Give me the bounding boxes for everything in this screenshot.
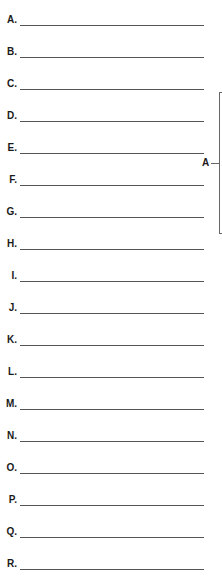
answer-blank-line[interactable] <box>20 377 204 378</box>
answer-blank-line[interactable] <box>20 185 204 186</box>
answer-blank-line[interactable] <box>20 217 204 218</box>
answer-row: E. <box>0 142 210 156</box>
answer-label: H. <box>7 238 17 250</box>
answer-row: D. <box>0 110 210 124</box>
answer-row: C. <box>0 78 210 92</box>
answer-blank-line[interactable] <box>20 505 204 506</box>
answer-label: C. <box>7 78 17 90</box>
answer-label: P. <box>9 494 17 506</box>
group-bracket <box>219 92 222 234</box>
answer-blank-line[interactable] <box>20 57 204 58</box>
answer-row: M. <box>0 398 210 412</box>
answer-blank-line[interactable] <box>20 153 204 154</box>
answer-blank-line[interactable] <box>20 473 204 474</box>
answer-row: F. <box>0 174 210 188</box>
answer-blank-line[interactable] <box>20 249 204 250</box>
answer-label: F. <box>9 174 17 186</box>
answer-row: R. <box>0 558 210 572</box>
answer-row: A. <box>0 14 210 28</box>
answer-row: B. <box>0 46 210 60</box>
answer-label: I. <box>11 270 17 282</box>
bracket-tick <box>211 163 219 164</box>
answer-blank-line[interactable] <box>20 25 204 26</box>
answer-row: N. <box>0 430 210 444</box>
answer-label: J. <box>9 302 17 314</box>
answer-row: J. <box>0 302 210 316</box>
answer-blank-line[interactable] <box>20 313 204 314</box>
answer-label: R. <box>7 558 17 570</box>
answer-blank-line[interactable] <box>20 281 204 282</box>
answer-blank-line[interactable] <box>20 121 204 122</box>
answer-row: P. <box>0 494 210 508</box>
answer-label: M. <box>6 398 17 410</box>
answer-blank-line[interactable] <box>20 537 204 538</box>
answer-label: Q. <box>6 526 17 538</box>
answer-label: B. <box>7 46 17 58</box>
answer-label: K. <box>7 334 17 346</box>
answer-blank-line[interactable] <box>20 441 204 442</box>
answer-blank-line[interactable] <box>20 569 204 570</box>
answer-label: A. <box>7 14 17 26</box>
answer-blank-line[interactable] <box>20 409 204 410</box>
answer-label: N. <box>7 430 17 442</box>
answer-label: L. <box>8 366 17 378</box>
answer-row: G. <box>0 206 210 220</box>
answer-label: E. <box>8 142 17 154</box>
answer-blank-line[interactable] <box>20 345 204 346</box>
answer-row: H. <box>0 238 210 252</box>
answer-row: L. <box>0 366 210 380</box>
answer-blank-line[interactable] <box>20 89 204 90</box>
answer-label: G. <box>6 206 17 218</box>
answer-row: K. <box>0 334 210 348</box>
answer-label: D. <box>7 110 17 122</box>
answer-row: O. <box>0 462 210 476</box>
bracket-label: A <box>202 157 209 169</box>
answer-label: O. <box>6 462 17 474</box>
answer-row: Q. <box>0 526 210 540</box>
answer-row: I. <box>0 270 210 284</box>
